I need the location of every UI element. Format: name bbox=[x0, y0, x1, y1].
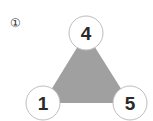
node-bottom-left: 1 bbox=[26, 86, 60, 120]
node-top: 4 bbox=[69, 16, 103, 50]
node-top-value: 4 bbox=[81, 23, 92, 44]
node-bottom-right: 5 bbox=[113, 86, 147, 120]
node-bottom-right-value: 5 bbox=[125, 93, 136, 114]
node-bottom-left-value: 1 bbox=[38, 93, 49, 114]
number-triangle-diagram: 4 1 5 bbox=[0, 0, 153, 121]
